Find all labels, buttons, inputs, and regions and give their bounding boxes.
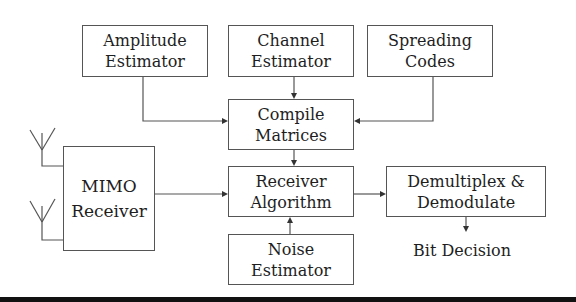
receiver-algorithm-block: Receiver Algorithm	[228, 166, 354, 217]
amplitude-estimator-block: Amplitude Estimator	[82, 25, 208, 77]
channel-estimator-label-line1: Channel	[257, 30, 324, 51]
spreading-codes-label-line2: Codes	[405, 51, 455, 72]
mimo-receiver-label-line2: Receiver	[71, 199, 147, 224]
receiver-algorithm-label-line1: Receiver	[255, 171, 326, 192]
mimo-receiver-block: MIMO Receiver	[63, 146, 155, 251]
channel-estimator-block: Channel Estimator	[228, 25, 354, 77]
arrowhead-spreading-to-compile	[354, 118, 360, 124]
spreading-codes-block: Spreading Codes	[367, 25, 493, 77]
noise-estimator-label-line1: Noise	[268, 239, 314, 260]
amplitude-estimator-label-line2: Estimator	[105, 51, 185, 72]
arrowhead-noise-to-receiver-algorithm	[287, 217, 293, 223]
connector-spreading-to-compile	[357, 77, 433, 121]
compile-matrices-block: Compile Matrices	[228, 99, 354, 150]
bottom-border-bar	[0, 297, 576, 302]
noise-estimator-block: Noise Estimator	[228, 234, 354, 285]
antenna-2-icon	[30, 199, 63, 240]
amplitude-estimator-label-line1: Amplitude	[103, 30, 187, 51]
arrowhead-demultiplex-to-bit-decision	[463, 226, 469, 232]
bit-decision-label: Bit Decision	[413, 241, 511, 260]
spreading-codes-label-line1: Spreading	[388, 30, 472, 51]
noise-estimator-label-line2: Estimator	[251, 260, 331, 281]
compile-matrices-label-line1: Compile	[258, 104, 325, 125]
receiver-algorithm-label-line2: Algorithm	[250, 192, 331, 213]
demultiplex-label-line1: Demultiplex &	[407, 171, 525, 192]
channel-estimator-label-line2: Estimator	[251, 51, 331, 72]
demultiplex-demodulate-block: Demultiplex & Demodulate	[386, 166, 546, 217]
demultiplex-label-line2: Demodulate	[417, 192, 515, 213]
connector-amplitude-to-compile	[143, 77, 225, 121]
mimo-receiver-block-diagram: Amplitude Estimator Channel Estimator Sp…	[0, 0, 576, 302]
antenna-1-icon	[30, 128, 63, 166]
mimo-receiver-label-line1: MIMO	[81, 174, 136, 199]
compile-matrices-label-line2: Matrices	[255, 125, 327, 146]
